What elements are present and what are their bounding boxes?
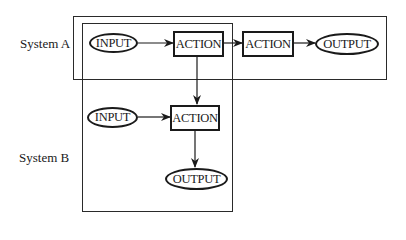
node-b-action: ACTION: [170, 105, 220, 131]
node-a-output: OUTPUT: [315, 33, 379, 55]
node-a-input: INPUT: [89, 33, 138, 53]
node-b-output: OUTPUT: [165, 168, 228, 190]
node-b-input-label: INPUT: [95, 110, 130, 125]
node-a-action-1-label: ACTION: [176, 37, 221, 52]
node-b-input: INPUT: [87, 107, 138, 128]
node-b-action-label: ACTION: [172, 111, 217, 126]
node-a-action-2: ACTION: [242, 31, 294, 57]
node-b-output-label: OUTPUT: [173, 172, 221, 187]
node-a-action-1: ACTION: [173, 31, 224, 57]
node-a-input-label: INPUT: [96, 36, 131, 51]
node-a-output-label: OUTPUT: [323, 37, 371, 52]
node-a-action-2-label: ACTION: [245, 37, 290, 52]
